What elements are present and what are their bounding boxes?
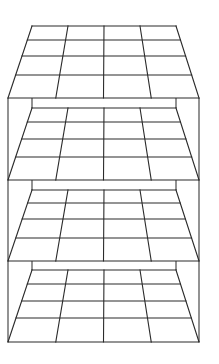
grid-vertical-line <box>104 26 105 98</box>
grid-vertical-line <box>104 108 105 180</box>
grid-planes <box>8 26 199 342</box>
grid-vertical-line <box>176 108 199 180</box>
grid-plane-3 <box>8 190 199 261</box>
grid-plane-4 <box>8 270 199 342</box>
grid-vertical-line <box>104 190 105 261</box>
grid-vertical-line <box>8 190 32 261</box>
grid-plane-1 <box>8 26 199 98</box>
grid-vertical-line <box>8 108 32 180</box>
grid-vertical-line <box>176 270 199 342</box>
grid-vertical-line <box>140 270 151 342</box>
grid-vertical-line <box>56 26 68 98</box>
grid-vertical-line <box>8 270 32 342</box>
grid-vertical-line <box>56 270 68 342</box>
grid-vertical-line <box>8 26 32 98</box>
grid-vertical-line <box>56 108 68 180</box>
grid-vertical-line <box>140 108 151 180</box>
grid-vertical-line <box>104 270 105 342</box>
grid-vertical-line <box>176 190 199 261</box>
grid-vertical-line <box>140 190 151 261</box>
grid-vertical-line <box>140 26 151 98</box>
grid-plane-2 <box>8 108 199 180</box>
grid-vertical-line <box>176 26 199 98</box>
diagram-canvas <box>0 0 219 364</box>
stacked-grid-diagram <box>0 0 219 364</box>
grid-vertical-line <box>56 190 68 261</box>
